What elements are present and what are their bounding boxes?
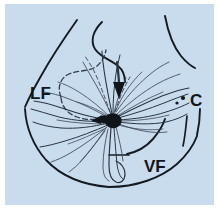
label-c: C bbox=[190, 91, 202, 110]
label-vf: VF bbox=[144, 157, 166, 176]
outline-canal-stem bbox=[183, 116, 187, 146]
figure-root: LF VF C bbox=[0, 0, 219, 220]
neuron-soma bbox=[99, 113, 121, 128]
outline-right-lower bbox=[197, 109, 200, 135]
label-lf: LF bbox=[30, 84, 51, 103]
neuron-drawing-svg: LF VF C bbox=[5, 4, 214, 205]
outline-right-upper bbox=[165, 16, 195, 68]
spinal-cord-outlines bbox=[25, 16, 200, 187]
outline-dorsal-septum bbox=[93, 22, 125, 82]
figure-panel: LF VF C bbox=[5, 4, 214, 205]
dendrites-right bbox=[116, 62, 189, 133]
